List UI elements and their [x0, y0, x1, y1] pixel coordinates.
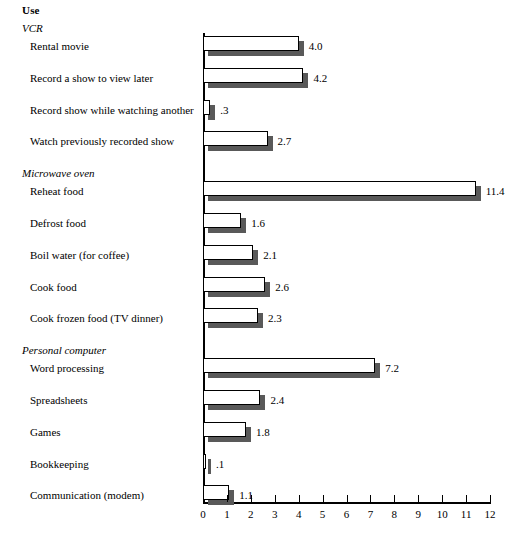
bar: 1.8 [203, 422, 252, 443]
bar-face [203, 422, 246, 437]
bar-shadow [208, 459, 211, 474]
bar-value-label: 11.4 [486, 185, 505, 197]
bar-label: Games [30, 426, 61, 438]
bar: 11.4 [203, 181, 482, 202]
bar-face [203, 454, 206, 469]
x-axis-tick [203, 495, 204, 502]
x-axis-tick-label: 3 [265, 508, 285, 520]
bar-label: Spreadsheets [30, 394, 87, 406]
bar-value-label: 2.4 [270, 394, 284, 406]
bar-face [203, 485, 229, 500]
bar-label: Boil water (for coffee) [30, 249, 129, 261]
bar-value-label: 4.2 [313, 72, 327, 84]
group-label-vcr: VCR [22, 22, 43, 34]
bar-value-label: .1 [216, 458, 224, 470]
bar-face [203, 100, 210, 115]
x-axis-tick [275, 495, 276, 502]
bar-face [203, 131, 268, 146]
x-axis-tick-label: 6 [337, 508, 357, 520]
bar-face [203, 181, 476, 196]
bar-label: Cook frozen food (TV dinner) [30, 312, 163, 324]
x-axis-tick-label: 1 [217, 508, 237, 520]
bar-label: Watch previously recorded show [30, 135, 174, 147]
x-axis-tick [394, 495, 395, 502]
bar-label: Bookkeeping [30, 458, 89, 470]
bar: .1 [203, 454, 212, 475]
bar: .3 [203, 100, 216, 121]
bar-face [203, 308, 258, 323]
x-axis-tick [251, 495, 252, 502]
x-axis-line [203, 502, 491, 504]
bar-face [203, 390, 260, 405]
x-axis-tick [299, 495, 300, 502]
bar-label: Reheat food [30, 185, 83, 197]
bar-value-label: 2.3 [268, 312, 282, 324]
bar-face [203, 277, 265, 292]
x-axis-tick [347, 495, 348, 502]
x-axis-tick-label: 4 [289, 508, 309, 520]
bar: 4.0 [203, 36, 305, 57]
bar-label: Record a show to view later [30, 72, 153, 84]
bar-value-label: 2.6 [275, 281, 289, 293]
bar-value-label: 1.6 [251, 217, 265, 229]
bar-value-label: 2.7 [278, 135, 292, 147]
bar-label: Cook food [30, 281, 77, 293]
bar-value-label: .3 [220, 104, 228, 116]
x-axis-tick [323, 495, 324, 502]
bar-label: Record show while watching another [30, 104, 194, 116]
x-axis-tick-label: 5 [313, 508, 333, 520]
x-axis-tick [227, 495, 228, 502]
group-label-microwave-oven: Microwave oven [22, 167, 95, 179]
x-axis-tick-label: 2 [241, 508, 261, 520]
x-axis-tick-label: 12 [480, 508, 500, 520]
bar-value-label: 7.2 [385, 362, 399, 374]
bar: 1.1 [203, 485, 235, 506]
x-axis-tick-label: 10 [432, 508, 452, 520]
x-axis-tick-label: 9 [408, 508, 428, 520]
bar-label: Rental movie [30, 40, 89, 52]
x-axis-tick [466, 495, 467, 502]
bar-face [203, 36, 299, 51]
x-axis-tick-label: 8 [384, 508, 404, 520]
bar: 4.2 [203, 68, 309, 89]
bar: 2.4 [203, 390, 266, 411]
group-label-personal-computer: Personal computer [22, 344, 106, 356]
x-axis-tick [418, 495, 419, 502]
bar-face [203, 358, 375, 373]
x-axis-tick-label: 7 [360, 508, 380, 520]
x-axis-tick [370, 495, 371, 502]
bar-value-label: 4.0 [309, 40, 323, 52]
x-axis-tick-label: 0 [193, 508, 213, 520]
x-axis-tick [442, 495, 443, 502]
bar: 2.1 [203, 245, 259, 266]
bar: 2.7 [203, 131, 274, 152]
bar-label: Word processing [30, 362, 104, 374]
bar-face [203, 68, 303, 83]
bar-face [203, 245, 253, 260]
bar-chart: Use 4.04.2.32.711.41.62.12.62.37.22.41.8… [0, 0, 512, 546]
bar: 7.2 [203, 358, 381, 379]
bar-value-label: 1.8 [256, 426, 270, 438]
bar-label: Communication (modem) [30, 489, 144, 501]
x-axis-tick [490, 495, 491, 502]
bar-label: Defrost food [30, 217, 86, 229]
bar: 1.6 [203, 213, 247, 234]
x-axis-tick-label: 11 [456, 508, 476, 520]
bar: 2.3 [203, 308, 264, 329]
bar-value-label: 2.1 [263, 249, 277, 261]
bar-face [203, 213, 241, 228]
bar: 2.6 [203, 277, 271, 298]
